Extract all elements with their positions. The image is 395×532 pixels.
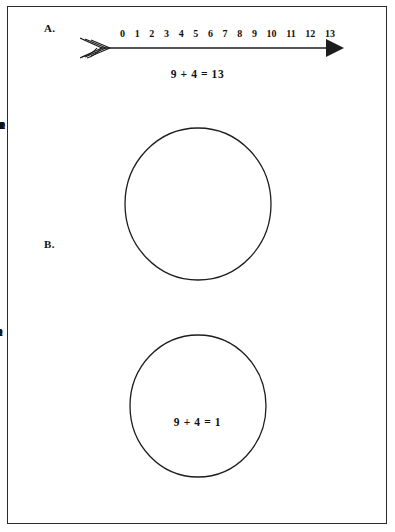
circle-numeral: 11 (0, 121, 5, 132)
tick-label: 4 (179, 29, 184, 39)
mod3-circle-outline (123, 333, 273, 479)
tick-label: 8 (237, 29, 242, 39)
number-line-tick-labels: 0 1 2 3 4 5 6 7 8 9 10 11 12 13 (120, 29, 335, 39)
tick-label: 9 (252, 29, 257, 39)
panel-a-label: A. (44, 22, 55, 34)
tick-label: 6 (208, 29, 213, 39)
panel-a-equation: 9 + 4 = 13 (0, 68, 395, 80)
panel-b-label: B. (44, 238, 55, 250)
arrowhead-icon (326, 39, 344, 57)
tick-label: 5 (193, 29, 198, 39)
tick-label: 11 (286, 29, 295, 39)
tick-label: 13 (325, 29, 335, 39)
tick-label: 2 (149, 29, 154, 39)
panel-b-clock: B. 121234567891011 9 + 4 = 1 (0, 126, 395, 286)
fletching-tail-icon (80, 38, 110, 58)
circle-numeral: 2 (0, 328, 3, 339)
tick-label: 10 (267, 29, 277, 39)
panel-c-mod3: C. 012 2 + 2 = 1 (0, 333, 395, 488)
clock-circle-outline (118, 126, 278, 282)
tick-label: 1 (135, 29, 140, 39)
number-line-arrow (80, 36, 345, 60)
tick-label: 7 (223, 29, 228, 39)
panel-a-number-line: A. 0 1 2 3 4 5 6 7 8 9 10 11 12 13 9 (0, 0, 395, 100)
tick-label: 3 (164, 29, 169, 39)
tick-label: 0 (120, 29, 125, 39)
tick-label: 12 (305, 29, 315, 39)
